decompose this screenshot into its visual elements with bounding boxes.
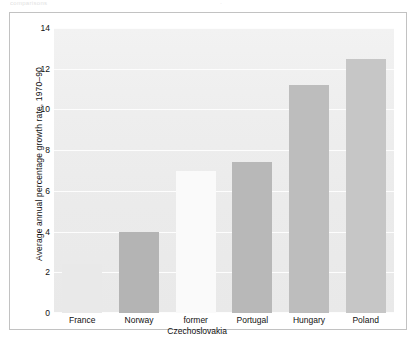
bar bbox=[346, 59, 386, 313]
y-axis-tick-label: 6 bbox=[45, 186, 50, 196]
y-axis-tick-labels: 02468101214 bbox=[34, 28, 50, 313]
x-axis-category-label: formerCzechoslovakia bbox=[167, 315, 224, 336]
x-axis-category-label: France bbox=[54, 315, 111, 326]
x-axis-category-label-line: Hungary bbox=[281, 315, 338, 326]
x-axis-category-label: Poland bbox=[337, 315, 394, 326]
x-axis-category-label-line: former bbox=[167, 315, 224, 326]
top-caption-right: · bbox=[220, 0, 222, 7]
bar bbox=[62, 264, 102, 313]
y-axis-tick-label: 2 bbox=[45, 267, 50, 277]
y-axis-tick-label: 14 bbox=[41, 23, 50, 33]
x-axis-category-label: Hungary bbox=[281, 315, 338, 326]
plot-area bbox=[54, 28, 394, 313]
y-axis-tick-label: 12 bbox=[41, 64, 50, 74]
figure-frame: Average annual percentage growth rate, 1… bbox=[9, 12, 407, 330]
top-caption-left: comparisons bbox=[10, 0, 47, 6]
top-caption-fragment: comparisons · bbox=[10, 0, 408, 7]
bar bbox=[176, 171, 216, 314]
y-axis-tick-label: 0 bbox=[45, 308, 50, 318]
x-axis-category-label: Portugal bbox=[224, 315, 281, 326]
x-axis-category-labels: FranceNorwayformerCzechoslovakiaPortugal… bbox=[54, 315, 394, 340]
x-axis-category-label-line: Portugal bbox=[224, 315, 281, 326]
x-axis-category-label-line: France bbox=[54, 315, 111, 326]
x-axis-category-label-line: Czechoslovakia bbox=[167, 326, 224, 337]
bar bbox=[232, 162, 272, 313]
y-axis-tick-label: 8 bbox=[45, 145, 50, 155]
x-axis-category-label-line: Poland bbox=[337, 315, 394, 326]
x-axis-category-label: Norway bbox=[111, 315, 168, 326]
y-axis-tick-label: 10 bbox=[41, 104, 50, 114]
bar-series bbox=[54, 28, 394, 313]
x-axis-category-label-line: Norway bbox=[111, 315, 168, 326]
y-axis-tick-label: 4 bbox=[45, 227, 50, 237]
bar bbox=[289, 85, 329, 313]
bar bbox=[119, 232, 159, 313]
